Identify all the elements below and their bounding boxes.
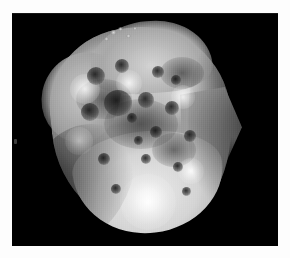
detached-speck-b (118, 27, 123, 31)
irregular-small-body (12, 13, 278, 246)
limb-shadow-east (188, 37, 264, 217)
page-root (0, 0, 290, 258)
crater-small-c3 (134, 136, 143, 145)
crater-mid-e (165, 101, 179, 115)
crater-central-e (138, 92, 154, 108)
detached-speck-e (104, 37, 109, 41)
detached-speck-c (126, 34, 131, 38)
crater-ne-pair-a (152, 66, 164, 78)
crater-s-east (173, 162, 183, 172)
detached-speck-a (110, 30, 117, 35)
crater-s-central (141, 154, 151, 164)
image-frame (12, 13, 278, 246)
crater-se-low (182, 187, 191, 196)
crater-small-c2 (150, 126, 162, 138)
detached-speck-d (133, 27, 137, 30)
crater-mid-w (81, 103, 99, 121)
crater-ne-pair-b (171, 75, 181, 85)
crater-n-central (115, 59, 129, 73)
crater-nw-rim (87, 67, 105, 85)
crater-central-big (104, 90, 132, 116)
crater-small-c1 (127, 113, 137, 123)
margin-fleck (14, 139, 17, 144)
